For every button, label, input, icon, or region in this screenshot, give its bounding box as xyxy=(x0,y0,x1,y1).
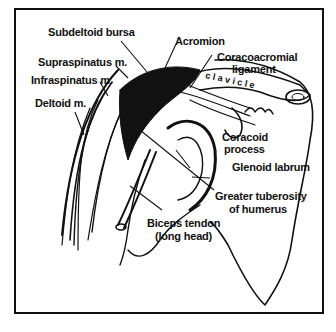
label-coracoacromial-ligament-line2: ligament xyxy=(232,63,276,75)
label-greater-tuberosity-line2: of humerus xyxy=(229,203,287,215)
label-coracoid-process-line2: process xyxy=(224,143,265,155)
label-coracoid-process-line1: Coracoid xyxy=(222,131,268,143)
label-glenoid-labrum: Glenoid labrum xyxy=(232,161,310,173)
label-biceps-tendon-line2: (long head) xyxy=(155,230,212,242)
label-acromion: Acromion xyxy=(175,35,225,47)
label-greater-tuberosity-line1: Greater tuberosity xyxy=(215,190,307,202)
label-supraspinatus: Supraspinatus m. xyxy=(38,56,127,68)
label-subdeltoid-bursa: Subdeltoid bursa xyxy=(48,26,135,38)
label-biceps-tendon-line1: Biceps tendon xyxy=(147,217,220,229)
label-coracoacromial-ligament-line1: Coracoacromial xyxy=(217,51,297,63)
label-infraspinatus: Infraspinatus m. xyxy=(31,74,113,86)
label-deltoid: Deltoid m. xyxy=(35,97,86,109)
